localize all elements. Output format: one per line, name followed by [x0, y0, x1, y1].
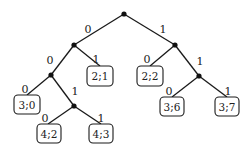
tree-edge: [175, 45, 199, 76]
internal-node-dot: [121, 11, 126, 16]
tree-edge: [199, 76, 227, 97]
binary-tree-diagram: 010101010101 2;12;23;04;24;33;63;7: [0, 0, 252, 156]
edge-label: 1: [197, 55, 204, 68]
leaf-label: 3;7: [219, 101, 236, 113]
tree-edge: [150, 45, 175, 66]
leaf-label: 2;2: [142, 70, 159, 82]
internal-node-dot: [71, 42, 76, 47]
edge-label: 1: [225, 85, 232, 98]
edge-label: 0: [42, 112, 49, 125]
edge-label: 1: [98, 112, 105, 125]
tree-edge: [124, 14, 175, 45]
edge-label: 0: [144, 53, 151, 66]
leaf-node: 4;2: [37, 124, 61, 143]
leaf-node: 2;1: [87, 66, 113, 86]
internal-node-dot: [172, 42, 177, 47]
leaf-label: 3;6: [164, 101, 181, 113]
edge-label: 0: [166, 85, 173, 98]
edge-label: 1: [72, 85, 79, 98]
leaf-node: 2;2: [137, 66, 163, 86]
edge-label: 0: [47, 54, 54, 67]
tree-edge: [48, 106, 74, 124]
edge-label: 0: [85, 23, 92, 36]
leaf-node: 3;0: [14, 95, 40, 114]
leaf-node: 3;6: [160, 97, 184, 116]
tree-edge: [172, 76, 199, 97]
internal-node-dot: [48, 72, 53, 77]
tree-edge: [27, 75, 51, 95]
leaf-node: 4;3: [89, 124, 113, 143]
leaf-label: 3;0: [19, 99, 36, 111]
tree-edge: [51, 45, 74, 75]
edge-label: 0: [22, 83, 29, 96]
internal-node-dot: [196, 73, 201, 78]
internal-node-dot: [71, 103, 76, 108]
leaf-label: 4;3: [93, 128, 110, 140]
tree-edges: [27, 14, 227, 124]
leaf-label: 4;2: [41, 128, 58, 140]
leaf-node: 3;7: [215, 97, 239, 116]
tree-edge: [74, 14, 124, 45]
edge-label: 1: [160, 23, 167, 36]
edge-label: 1: [93, 53, 100, 66]
leaf-label: 2;1: [92, 70, 109, 82]
